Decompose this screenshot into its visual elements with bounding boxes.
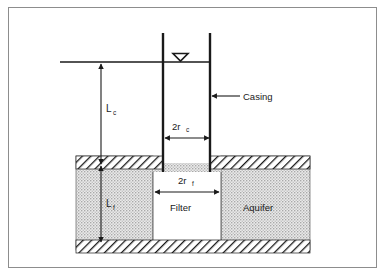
confining-layer-top-left xyxy=(76,156,163,169)
lc-label-subscript: c xyxy=(113,109,117,116)
water-table-triangle-icon xyxy=(173,54,188,62)
casing-label: Casing xyxy=(243,91,273,102)
figure-canvas: L c L f 2r c 2r f Casing Filter Aqu xyxy=(0,0,387,278)
dimension-casing-length: L c xyxy=(101,64,117,164)
confining-layer-top-right xyxy=(210,156,310,169)
water-level xyxy=(60,54,210,63)
well-cross-section-diagram: L c L f 2r c 2r f Casing Filter Aqu xyxy=(0,0,387,278)
aquifer-label: Aquifer xyxy=(243,202,273,213)
lc-label-main: L xyxy=(106,103,112,114)
lf-label-main: L xyxy=(106,198,112,209)
filter-label: Filter xyxy=(170,202,191,213)
confining-layer-bottom xyxy=(76,240,310,253)
aquifer-left-body xyxy=(76,156,153,250)
dimension-casing-radius: 2r c xyxy=(165,121,209,138)
rc-label-main: 2r xyxy=(172,121,180,132)
rf-label-subscript: f xyxy=(192,180,194,187)
callout-casing: Casing xyxy=(212,91,273,102)
rc-label-subscript: c xyxy=(186,126,190,133)
lf-label-subscript: f xyxy=(113,204,115,211)
rf-label-main: 2r xyxy=(178,175,186,186)
